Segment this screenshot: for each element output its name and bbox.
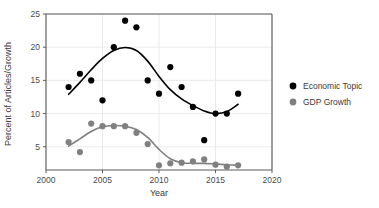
chart-svg: 510152025 20002005201020152020 Economic …	[0, 0, 379, 208]
data-point	[88, 120, 94, 126]
legend-label: GDP Growth	[303, 97, 351, 107]
data-point	[212, 162, 218, 168]
data-point	[66, 84, 72, 90]
trend-line-gdp-growth	[69, 125, 239, 165]
data-point	[133, 24, 139, 30]
data-point	[99, 97, 105, 103]
y-axis-title: Percent of Articles/Growth	[3, 42, 13, 146]
data-point	[122, 123, 128, 129]
data-point	[235, 91, 241, 97]
data-point	[179, 160, 185, 166]
data-point	[145, 77, 151, 83]
trend-lines	[69, 48, 239, 166]
data-point	[88, 77, 94, 83]
legend-marker	[290, 99, 297, 106]
data-point	[224, 110, 230, 116]
data-point	[201, 137, 207, 143]
data-point	[145, 141, 151, 147]
data-point	[235, 162, 241, 168]
x-axis-tick-labels: 20002005201020152020	[37, 170, 282, 185]
data-point	[167, 64, 173, 70]
legend-marker	[290, 83, 297, 90]
data-point	[77, 149, 83, 155]
data-point	[111, 123, 117, 129]
data-point	[77, 71, 83, 77]
y-tick-label: 5	[35, 142, 40, 152]
y-tick-label: 10	[31, 109, 41, 119]
chart-figure: 510152025 20002005201020152020 Economic …	[0, 0, 379, 208]
data-point	[224, 164, 230, 170]
data-point	[122, 18, 128, 24]
x-tick-label: 2000	[37, 175, 56, 185]
chart-legend: Economic TopicGDP Growth	[290, 81, 364, 107]
y-tick-label: 25	[31, 9, 41, 19]
data-point	[156, 162, 162, 168]
y-tick-label: 20	[31, 42, 41, 52]
data-point	[190, 104, 196, 110]
x-axis-title: Year	[150, 188, 168, 198]
data-point	[99, 123, 105, 129]
data-point	[201, 156, 207, 162]
data-point	[179, 84, 185, 90]
data-point	[156, 91, 162, 97]
x-tick-label: 2005	[93, 175, 112, 185]
x-tick-label: 2010	[150, 175, 169, 185]
data-point	[212, 110, 218, 116]
data-point	[167, 160, 173, 166]
data-point	[190, 158, 196, 164]
y-tick-label: 15	[31, 75, 41, 85]
legend-label: Economic Topic	[303, 81, 363, 91]
x-tick-label: 2020	[263, 175, 282, 185]
x-tick-label: 2015	[206, 175, 225, 185]
data-point	[111, 44, 117, 50]
y-axis-tick-labels: 510152025	[31, 9, 46, 152]
data-point	[133, 130, 139, 136]
data-point	[66, 139, 72, 145]
